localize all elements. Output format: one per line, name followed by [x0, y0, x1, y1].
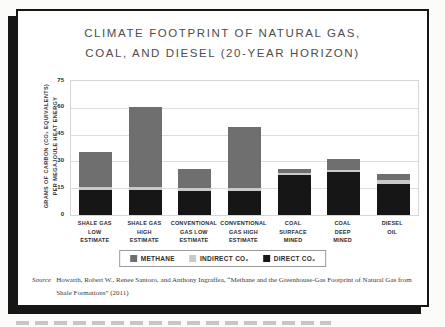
category-label-line: LOW [70, 228, 120, 237]
category-label-line: ESTIMATE [70, 236, 120, 245]
gridline-60 [71, 108, 418, 109]
legend-swatch-icon [189, 255, 196, 262]
legend-swatch-icon [130, 255, 137, 262]
category-label-line: ESTIMATE [219, 236, 269, 245]
infographic-card: CLIMATE FOOTPRINT OF NATURAL GAS, COAL, … [16, 9, 429, 307]
bar-segment-indirect-co2-6 [327, 170, 360, 172]
category-label-line: DEEP [318, 228, 368, 237]
y-axis-title-line-2: PER MEGAJOULE HEAT ENERGY [51, 71, 60, 221]
legend-item-3: DIRECT CO₂ [263, 255, 316, 262]
bar-segment-direct-co2-2 [129, 190, 162, 215]
plot-area [70, 80, 419, 216]
y-tick-label-45: 45 [46, 130, 64, 136]
bar-segment-indirect-co2-2 [129, 187, 162, 190]
cropped-page-text-remnant [16, 321, 331, 325]
bar-segment-direct-co2-1 [79, 190, 112, 215]
y-tick-label-15: 15 [46, 184, 64, 190]
bar-segment-methane-6 [327, 159, 360, 171]
bar-segment-indirect-co2-7 [377, 180, 410, 184]
legend-swatch-icon [263, 255, 270, 262]
category-label-7: DIESELOIL [367, 219, 417, 236]
category-label-5: COALSURFACEMINED [268, 219, 318, 245]
y-tick-label-60: 60 [46, 103, 64, 109]
category-label-line: GAS LOW [169, 228, 219, 237]
category-label-4: CONVENTIONALGAS HIGHESTIMATE [219, 219, 269, 245]
y-tick-label-75: 75 [46, 77, 64, 83]
legend-label: INDIRECT CO₂ [200, 255, 249, 262]
chart-title-line-2: COAL, AND DIESEL (20-YEAR HORIZON) [18, 43, 427, 63]
chart-legend: METHANEINDIRECT CO₂DIRECT CO₂ [119, 250, 327, 267]
chart-title-line-1: CLIMATE FOOTPRINT OF NATURAL GAS, [18, 23, 427, 43]
y-axis-title-line-1: GRAMS OF CARBON (CO₂ EQUIVALENTS) [42, 71, 51, 221]
source-citation: Howarth, Robert W., Renee Santoro, and A… [56, 274, 414, 299]
category-label-line: SURFACE [268, 228, 318, 237]
bar-segment-methane-1 [79, 152, 112, 188]
category-label-3: CONVENTIONALGAS LOWESTIMATE [169, 219, 219, 245]
category-label-6: COALDEEPMINED [318, 219, 368, 245]
bar-segment-indirect-co2-1 [79, 187, 112, 190]
bar-segment-direct-co2-7 [377, 184, 410, 215]
bar-segment-indirect-co2-4 [228, 188, 261, 191]
category-label-2: SHALE GASHIGHESTIMATE [120, 219, 170, 245]
y-tick-label-30: 30 [46, 157, 64, 163]
category-label-line: COAL [318, 219, 368, 228]
legend-item-1: METHANE [130, 255, 175, 262]
category-label-line: MINED [268, 236, 318, 245]
infographic-screenshot: CLIMATE FOOTPRINT OF NATURAL GAS, COAL, … [0, 0, 445, 327]
category-label-line: CONVENTIONAL [219, 219, 269, 228]
bar-segment-indirect-co2-5 [278, 173, 311, 175]
bar-segment-methane-7 [377, 174, 410, 180]
legend-label: DIRECT CO₂ [274, 255, 316, 262]
bar-segment-direct-co2-3 [178, 191, 211, 215]
category-label-line: ESTIMATE [169, 236, 219, 245]
y-tick-label-0: 0 [46, 211, 64, 217]
category-label-line: GAS HIGH [219, 228, 269, 237]
bar-segment-methane-3 [178, 169, 211, 188]
bar-segment-methane-2 [129, 107, 162, 187]
category-label-line: DIESEL [367, 219, 417, 228]
category-label-line: HIGH [120, 228, 170, 237]
bar-segment-methane-4 [228, 127, 261, 188]
bar-segment-methane-5 [278, 169, 311, 173]
category-label-line: SHALE GAS [70, 219, 120, 228]
bar-segment-indirect-co2-3 [178, 188, 211, 191]
source-line: Source Howarth, Robert W., Renee Santoro… [32, 274, 414, 299]
legend-label: METHANE [141, 255, 175, 262]
bar-segment-direct-co2-6 [327, 172, 360, 215]
chart-title: CLIMATE FOOTPRINT OF NATURAL GAS, COAL, … [18, 23, 427, 63]
category-label-line: ESTIMATE [120, 236, 170, 245]
bar-segment-direct-co2-5 [278, 175, 311, 215]
legend-item-2: INDIRECT CO₂ [189, 255, 249, 262]
source-label: Source [32, 274, 51, 299]
category-label-line: MINED [318, 236, 368, 245]
y-axis-title: GRAMS OF CARBON (CO₂ EQUIVALENTS) PER ME… [42, 71, 60, 221]
bar-segment-direct-co2-4 [228, 191, 261, 215]
category-label-line: CONVENTIONAL [169, 219, 219, 228]
category-label-line: OIL [367, 228, 417, 237]
category-label-line: COAL [268, 219, 318, 228]
category-label-1: SHALE GASLOWESTIMATE [70, 219, 120, 245]
category-label-line: SHALE GAS [120, 219, 170, 228]
